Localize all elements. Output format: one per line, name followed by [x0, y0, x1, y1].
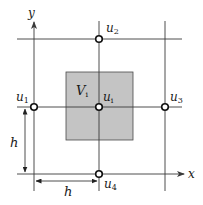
dimension-label-horizontal: h [64, 184, 72, 199]
node-label-u4: u4 [104, 177, 117, 192]
grid-stencil-diagram: y x h h Vi u1 u2 u3 u4 ui [0, 0, 203, 205]
x-axis-label: x [188, 167, 195, 181]
node-u1 [31, 104, 38, 111]
dimension-label-vertical: h [10, 135, 18, 150]
nodes [31, 36, 169, 178]
node-ui [96, 104, 103, 111]
node-u4 [96, 171, 103, 178]
node-label-u3: u3 [170, 90, 183, 105]
control-volume-label-sub: i [85, 90, 88, 99]
node-u3 [162, 104, 169, 111]
node-u2 [96, 36, 103, 43]
node-label-u2: u2 [106, 21, 119, 36]
node-label-u1: u1 [16, 90, 29, 105]
y-axis-label: y [27, 6, 35, 20]
